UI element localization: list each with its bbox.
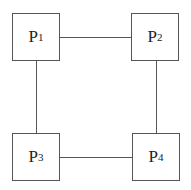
node-p3: P3: [12, 133, 60, 181]
edge-p1-p2: [60, 37, 131, 38]
node-p1-subscript: 1: [38, 31, 44, 43]
node-p1-letter: P: [29, 27, 38, 47]
node-p4-letter: P: [149, 147, 158, 167]
node-p3-letter: P: [29, 147, 38, 167]
edge-p2-p4: [156, 61, 157, 133]
edge-p1-p3: [36, 61, 37, 133]
edge-p3-p4: [60, 157, 132, 158]
diagram-canvas: P1 P2 P3 P4: [0, 0, 191, 190]
node-p4-subscript: 4: [158, 151, 164, 163]
node-p2: P2: [131, 13, 179, 61]
node-p2-letter: P: [148, 27, 157, 47]
node-p1: P1: [12, 13, 60, 61]
node-p4: P4: [132, 133, 180, 181]
node-p2-subscript: 2: [157, 31, 163, 43]
node-p3-subscript: 3: [38, 151, 44, 163]
